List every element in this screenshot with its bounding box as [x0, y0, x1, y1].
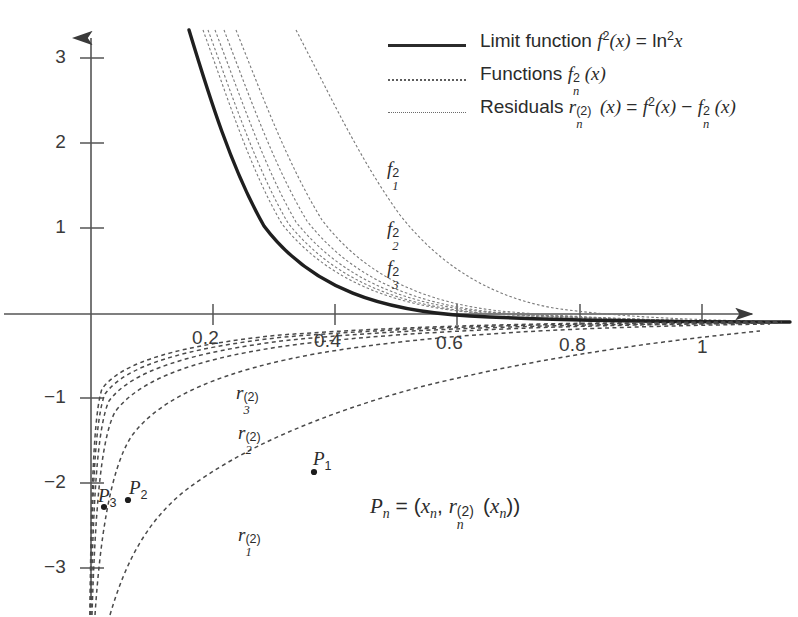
legend-label-limit-function: Limit function f2(x) = ln2x [480, 30, 682, 52]
annotation-x2-base: x [490, 494, 499, 518]
curve-label-r2: r(2)2 [238, 422, 269, 444]
legend-residuals-rhs2-arg: (x) [715, 96, 736, 117]
annotation-r-base: r [449, 494, 457, 518]
annotation-lhs-sub: n [383, 506, 390, 521]
legend-swatch-solid-line [388, 44, 466, 47]
y-tick-label-minus2: −2 [16, 471, 66, 493]
legend-swatch-dotted-fine-line [388, 112, 466, 113]
annotation-x-sub: n [430, 506, 437, 521]
point-label-p1-base: P [313, 448, 325, 469]
point-definition-annotation: Pn = (xn, r(2)n(xn)) [370, 494, 520, 519]
curve-label-f3-sub: 3 [392, 278, 398, 293]
legend-limit-eq: = [631, 30, 653, 51]
legend-residuals-minus: − [676, 96, 698, 117]
legend-residuals-sub: n [576, 117, 582, 132]
y-tick-label-3: 3 [24, 46, 66, 68]
annotation-close-paren: )) [506, 494, 520, 517]
curve-label-r3: r(2)3 [236, 382, 267, 404]
point-label-p2-sub: 2 [141, 488, 148, 502]
curve-label-r2-base: r [238, 422, 245, 443]
annotation-eq: = ( [390, 494, 421, 517]
x-tick-label-0.2: 0.2 [192, 327, 219, 349]
legend-residuals-rhs2-sub: n [703, 117, 709, 132]
y-tick-label-1: 1 [24, 216, 66, 238]
legend-label-functions: Functions f2n(x) [480, 63, 606, 85]
legend-limit-arg: (x) [610, 30, 631, 51]
curve-label-f3: f23 [387, 257, 404, 279]
curve-label-r3-sub: 3 [243, 403, 249, 418]
point-label-p1-sub: 1 [325, 459, 332, 473]
x-tick-label-1: 1 [697, 336, 708, 358]
curve-label-r1-base: r [238, 524, 245, 545]
x-tick-label-0.4: 0.4 [314, 330, 341, 352]
legend-residuals-prefix: Residuals [480, 96, 569, 117]
residual-curve-family [90, 322, 782, 615]
residual-curve-n2 [95, 324, 770, 615]
point-label-p3: P3 [98, 485, 117, 507]
curve-label-r3-base: r [236, 382, 243, 403]
legend-limit-rhs-fn: ln [652, 30, 667, 51]
curve-label-r2-sub: 2 [245, 443, 251, 458]
point-label-p2: P2 [129, 477, 148, 499]
y-tick-label-2: 2 [24, 131, 66, 153]
annotation-x-base: x [421, 494, 430, 518]
point-label-p2-base: P [129, 477, 141, 498]
legend-functions-arg: (x) [585, 63, 606, 84]
y-tick-label-minus1: −1 [16, 386, 66, 408]
curve-label-f1: f21 [387, 158, 404, 180]
point-label-p1: P1 [313, 448, 332, 470]
curve-label-f2-sub: 2 [392, 239, 398, 254]
legend: Limit function f2(x) = ln2x Functions f2… [388, 30, 778, 129]
legend-limit-rhs-arg: x [674, 30, 682, 51]
curve-label-f1-sub: 1 [392, 179, 398, 194]
legend-item-limit-function: Limit function f2(x) = ln2x [388, 30, 778, 63]
figure-canvas: 3 2 1 −1 −2 −3 0.2 0.4 0.6 0.8 1 Limit f… [0, 0, 798, 617]
legend-limit-rhs-sup: 2 [667, 29, 674, 43]
annotation-comma: , [437, 494, 449, 517]
legend-residuals-rhs1-sup: 2 [648, 95, 655, 109]
legend-item-functions: Functions f2n(x) [388, 63, 778, 96]
legend-residuals-arg: (x) [600, 96, 621, 117]
curve-label-r1-sub: 1 [245, 545, 251, 560]
legend-limit-prefix: Limit function [480, 30, 597, 51]
residual-curve-n4 [91, 323, 778, 615]
y-tick-label-minus3: −3 [16, 556, 66, 578]
x-tick-label-0.6: 0.6 [436, 332, 463, 354]
legend-functions-prefix: Functions [480, 63, 568, 84]
x-tick-label-0.8: 0.8 [559, 334, 586, 356]
point-label-p3-sub: 3 [110, 496, 117, 510]
residual-curve-n3 [92, 323, 775, 615]
legend-item-residuals: Residuals r(2)n(x) = f2(x) − f2n(x) [388, 96, 778, 129]
legend-residuals-fn: r [569, 96, 576, 117]
annotation-r-sub: n [457, 517, 464, 533]
annotation-lhs-base: P [370, 494, 383, 518]
curve-label-r1: r(2)1 [238, 524, 269, 546]
point-label-p3-base: P [98, 485, 110, 506]
legend-residuals-eq: = [621, 96, 643, 117]
residual-curve-n1 [110, 331, 760, 615]
legend-label-residuals: Residuals r(2)n(x) = f2(x) − f2n(x) [480, 96, 736, 118]
curve-label-f2: f22 [387, 218, 404, 240]
legend-residuals-rhs1-arg: (x) [655, 96, 676, 117]
legend-swatch-dotted-line [388, 79, 466, 81]
legend-limit-fn-sup: 2 [603, 29, 610, 43]
